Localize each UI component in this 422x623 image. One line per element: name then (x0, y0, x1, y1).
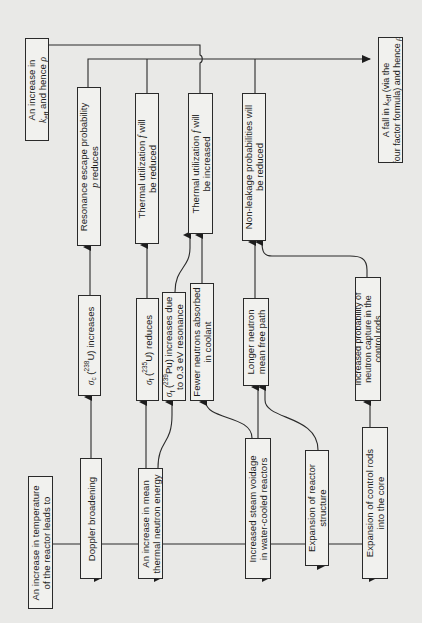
box-sigma-c-u238: σc (238U) increases (78, 295, 101, 396)
box-fewer-neutrons-absorbed: Fewer neutrons absorbed in coolant (190, 283, 214, 401)
box-thermal-utilization-increased: Thermal utilization f will be increased (188, 93, 213, 234)
box-sigma-f-pu239: σf (239Pu) increases due to 0.3 eV reson… (162, 292, 186, 401)
box-structure-expansion: Expansion of reactor structure (305, 450, 329, 566)
box-keff-increase: An increase in keff and hence ρ (25, 38, 49, 141)
box-resonance-escape: Resonance escape probability p reduces (77, 87, 101, 246)
box-doppler-broadening: Doppler broadening (80, 458, 102, 579)
box-sigma-f-u235: σf (235U) reduces (136, 298, 159, 401)
box-temperature-increase: An increase in temperature of the reacto… (28, 476, 53, 609)
box-keff-fall: A fall in keff (via the four factor form… (378, 37, 403, 163)
box-thermal-neutron-energy: An increase in mean thermal neutron ener… (138, 468, 163, 579)
box-longer-mean-free-path: Longer neutron mean free path (243, 298, 269, 386)
box-steam-voidage: Increased steam voidage in water-cooled … (245, 438, 271, 579)
box-control-rods-expansion: Expansion of control rods into the core (362, 427, 388, 579)
box-non-leakage: Non-leakage probabilities will be reduce… (242, 93, 266, 241)
box-control-rod-capture: Increased probability of neutron capture… (355, 277, 381, 401)
box-thermal-utilization-reduced: Thermal utilization f will be reduced (135, 93, 159, 244)
